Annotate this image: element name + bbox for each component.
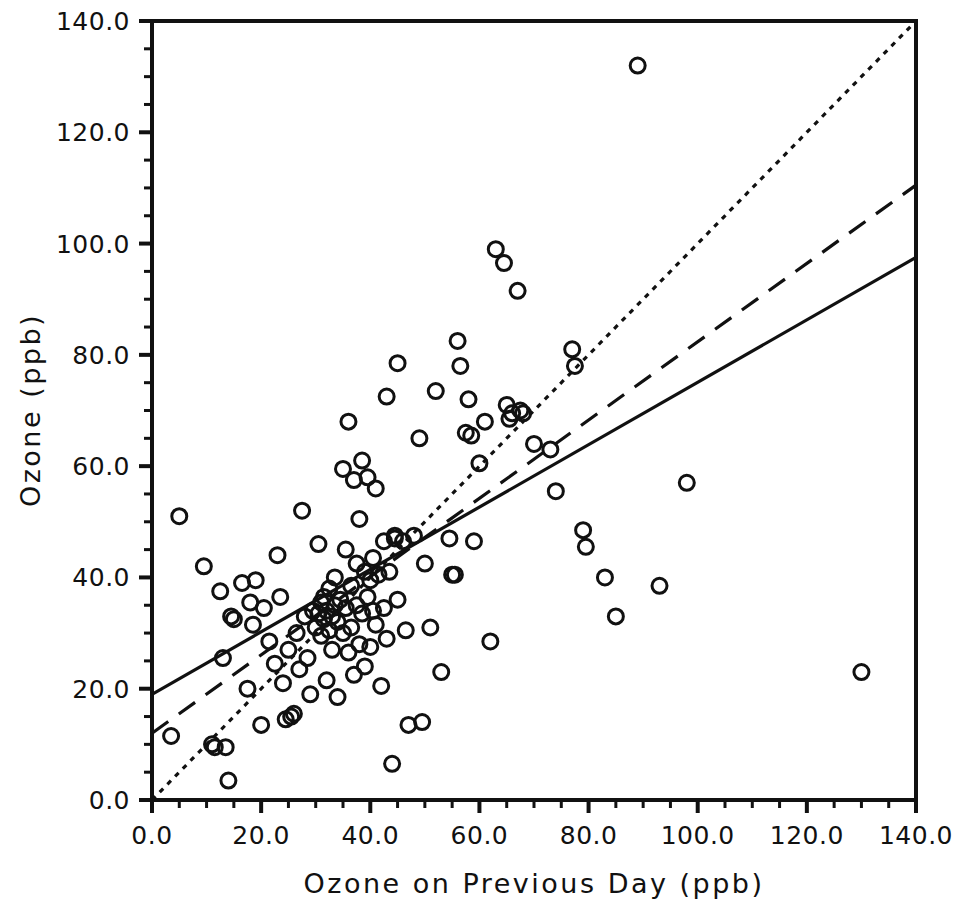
data-point — [300, 651, 315, 666]
data-point — [245, 617, 260, 632]
data-point — [496, 256, 511, 271]
data-point — [267, 656, 282, 671]
data-point — [357, 659, 372, 674]
data-point — [213, 584, 228, 599]
data-point — [281, 642, 296, 657]
data-point — [262, 634, 277, 649]
data-point — [352, 512, 367, 527]
data-point — [303, 687, 318, 702]
data-point — [597, 570, 612, 585]
data-point — [578, 539, 593, 554]
x-tick-label: 80.0 — [560, 821, 618, 850]
x-tick-label: 100.0 — [661, 821, 735, 850]
data-point — [548, 484, 563, 499]
data-point — [325, 642, 340, 657]
x-tick-label: 0.0 — [131, 821, 172, 850]
data-point — [630, 58, 645, 73]
data-point — [221, 773, 236, 788]
chart-figure: 0.020.040.060.080.0100.0120.0140.0 0.020… — [0, 0, 956, 905]
y-axis-title: Ozone (ppb) — [15, 313, 46, 507]
scatter-plot-svg: 0.020.040.060.080.0100.0120.0140.0 0.020… — [0, 0, 956, 905]
data-point — [338, 542, 353, 557]
data-point — [355, 453, 370, 468]
y-tick-label: 140.0 — [56, 7, 130, 36]
y-axis-tick-labels: 0.020.040.060.080.0100.0120.0140.0 — [56, 7, 130, 815]
y-tick-label: 100.0 — [56, 230, 130, 259]
data-point — [488, 242, 503, 257]
dashed-regression-line — [152, 185, 916, 733]
data-point — [240, 681, 255, 696]
data-point — [417, 556, 432, 571]
data-point — [385, 756, 400, 771]
x-axis-tick-labels: 0.020.040.060.080.0100.0120.0140.0 — [131, 821, 953, 850]
data-point — [330, 690, 345, 705]
y-tick-label: 0.0 — [89, 786, 130, 815]
data-point — [466, 534, 481, 549]
data-point — [472, 456, 487, 471]
data-point — [477, 414, 492, 429]
y-tick-label: 20.0 — [72, 675, 130, 704]
data-point — [450, 333, 465, 348]
data-point — [543, 442, 558, 457]
data-point — [567, 358, 582, 373]
data-point — [368, 481, 383, 496]
x-tick-label: 140.0 — [879, 821, 953, 850]
data-point — [390, 592, 405, 607]
data-point — [428, 384, 443, 399]
x-tick-label: 60.0 — [451, 821, 509, 850]
data-point — [483, 634, 498, 649]
y-tick-label: 80.0 — [72, 341, 130, 370]
data-point — [398, 623, 413, 638]
data-point — [434, 665, 449, 680]
data-point — [254, 717, 269, 732]
data-point — [453, 358, 468, 373]
data-point — [273, 589, 288, 604]
reference-lines — [152, 21, 916, 800]
data-point — [295, 503, 310, 518]
data-point — [527, 436, 542, 451]
data-point — [565, 342, 580, 357]
data-point — [311, 537, 326, 552]
data-point — [510, 283, 525, 298]
data-point — [576, 523, 591, 538]
data-point — [341, 414, 356, 429]
data-point — [412, 431, 427, 446]
y-tick-label: 120.0 — [56, 118, 130, 147]
x-tick-label: 20.0 — [232, 821, 290, 850]
data-point — [172, 509, 187, 524]
x-tick-label: 40.0 — [341, 821, 399, 850]
x-axis-title: Ozone on Previous Day (ppb) — [303, 868, 764, 899]
data-point — [679, 475, 694, 490]
data-point — [368, 617, 383, 632]
data-point — [374, 678, 389, 693]
data-point — [164, 729, 179, 744]
data-point — [256, 601, 271, 616]
data-point — [319, 673, 334, 688]
identity-line — [152, 21, 916, 800]
y-tick-label: 40.0 — [72, 563, 130, 592]
data-point — [390, 356, 405, 371]
data-point — [270, 548, 285, 563]
data-point — [854, 665, 869, 680]
data-point — [379, 389, 394, 404]
data-point — [652, 578, 667, 593]
y-tick-label: 60.0 — [72, 452, 130, 481]
data-point — [608, 609, 623, 624]
data-point — [442, 531, 457, 546]
solid-regression-line — [152, 257, 916, 694]
data-point — [196, 559, 211, 574]
data-point — [366, 550, 381, 565]
x-tick-label: 120.0 — [770, 821, 844, 850]
data-point — [379, 631, 394, 646]
data-point — [423, 620, 438, 635]
data-point — [275, 676, 290, 691]
data-point — [461, 392, 476, 407]
